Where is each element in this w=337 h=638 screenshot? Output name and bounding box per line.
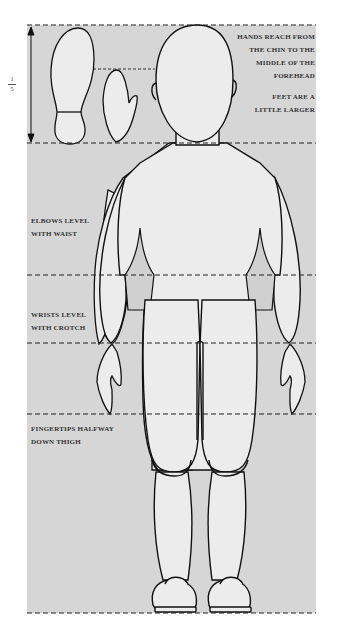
left-hand	[97, 344, 121, 414]
note-line: FINGERTIPS HALFWAY	[31, 423, 114, 436]
right-shoe-sole	[210, 607, 251, 612]
left-shin	[154, 472, 192, 580]
right-hand	[281, 344, 305, 414]
arrow-down-icon	[28, 134, 34, 142]
note-line: WITH WAIST	[31, 228, 89, 241]
note-line: ELBOWS LEVEL	[31, 215, 89, 228]
handprint-icon	[103, 70, 137, 142]
elbows-note: ELBOWS LEVEL WITH WAIST	[31, 215, 89, 241]
note-line: WITH CROTCH	[31, 322, 86, 335]
note-line: WRISTS LEVEL	[31, 309, 86, 322]
left-ear	[152, 83, 156, 100]
right-thigh	[200, 300, 257, 472]
note-line: DOWN THIGH	[31, 436, 114, 449]
note-line: LITTLE LARGER	[255, 104, 315, 117]
feet-note: FEET ARE A LITTLE LARGER	[255, 91, 315, 117]
hands-reach-note: HANDS REACH FROM THE CHIN TO THE MIDDLE …	[237, 31, 315, 83]
note-line: THE CHIN TO THE	[237, 44, 315, 57]
arrow-up-icon	[28, 27, 34, 35]
left-shoe-sole	[155, 607, 196, 612]
wrists-note: WRISTS LEVEL WITH CROTCH	[31, 309, 86, 335]
fingertips-note: FINGERTIPS HALFWAY DOWN THIGH	[31, 423, 114, 449]
right-shin	[208, 472, 246, 580]
note-line: MIDDLE OF THE	[237, 57, 315, 70]
footprint-icon	[51, 28, 94, 144]
note-line: FEET ARE A	[255, 91, 315, 104]
note-line: FOREHEAD	[237, 70, 315, 83]
head	[156, 25, 233, 142]
note-line: HANDS REACH FROM	[237, 31, 315, 44]
left-thigh	[143, 300, 200, 472]
